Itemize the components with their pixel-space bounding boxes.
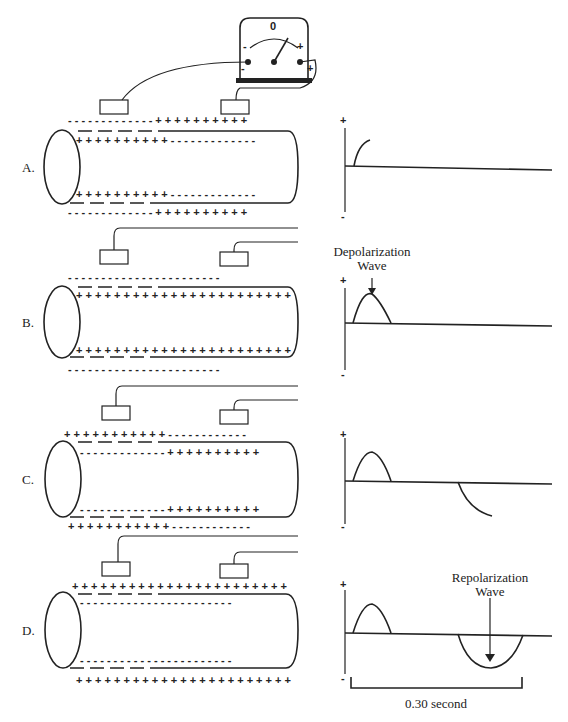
electrode-left-d [102,562,130,576]
terminal-minus-sign: - [241,62,245,74]
panel-label-a: A. [22,160,35,175]
trace-d-minus: - [341,672,345,684]
panel-label-c: C. [22,472,34,487]
c-outer-top-charges: + + + + + + + + + + + - - - - - - - - - … [64,428,246,440]
electrode-right-b [220,252,248,266]
trace-a-plus: + [340,114,346,126]
electrode-right-a [221,100,249,114]
depolarization-wave-label-line2: Wave [357,258,386,273]
galvanometer-zero-label: 0 [270,20,276,32]
wire-right-d [234,552,298,564]
c-inner-bottom-charges: - - - - - - - - - - - - - + + + + + + + … [80,503,259,515]
wire-right-b [234,242,298,252]
wire-left-c [116,386,298,406]
trace-b [345,278,552,370]
trace-a [345,128,552,212]
wire-left-d [118,536,298,562]
electrode-left-b [100,250,128,264]
d-outer-top-charges: + + + + + + + + + + + + + + + + + + + + … [72,580,287,592]
time-scale-label: 0.30 second [405,696,468,711]
a-inner-top-charges: + + + + + + + + + + - - - - - - - - - - … [76,134,255,146]
galvanometer-base [236,78,312,83]
trace-c [345,438,552,524]
trace-c-minus: - [341,520,345,532]
c-inner-top-charges: - - - - - - - - - - - - - + + + + + + + … [80,446,259,458]
trace-d [345,590,552,674]
galvanometer-needle [274,38,288,62]
terminal-plus-sign: + [307,62,313,74]
b-inner-bottom-charges: + + + + + + + + + + + + + + + + + + + + … [76,344,291,356]
depolarization-wave-label-line1: Depolarization [333,244,411,259]
wire-negative [122,62,248,100]
electrode-left-c [102,406,130,420]
trace-c-plus: + [340,428,346,440]
time-scale-bracket [351,677,522,688]
b-outer-bottom-charges: - - - - - - - - - - - - - - - - - - - - … [68,363,220,375]
a-outer-top-charges: - - - - - - - - - - - - - + + + + + + + … [68,114,247,126]
wire-left-b [114,228,298,250]
galvanometer: 0 - + - + [236,18,313,83]
galvanometer-plus-label: + [297,40,303,52]
panel-label-b: B. [22,315,34,330]
a-outer-bottom-charges: - - - - - - - - - - - - - + + + + + + + … [68,206,247,218]
trace-b-minus: - [341,368,345,380]
electrode-right-c [220,410,248,424]
c-outer-bottom-charges: + + + + + + + + + + + - - - - - - - - - … [68,520,250,532]
a-inner-bottom-charges: + + + + + + + + + + - - - - - - - - - - … [76,188,255,200]
repolarization-wave-label-line2: Wave [475,584,504,599]
b-outer-top-charges: - - - - - - - - - - - - - - - - - - - - … [68,271,220,283]
electrode-right-d [220,564,248,578]
d-outer-bottom-charges: + + + + + + + + + + + + + + + + + + + + … [76,674,291,686]
panel-label-d: D. [22,623,35,638]
repolarization-wave-label-line1: Repolarization [452,570,529,585]
d-inner-bottom-charges: - - - - - - - - - - - - - - - - - - - - … [80,654,232,666]
trace-a-minus: - [341,210,345,222]
wire-right-c [234,400,298,410]
electrode-left-a [100,100,128,114]
trace-b-plus: + [340,274,346,286]
galvanometer-scale-arc [250,39,298,48]
trace-d-plus: + [340,578,346,590]
b-inner-top-charges: + + + + + + + + + + + + + + + + + + + + … [76,289,291,301]
galvanometer-minus-label: - [243,40,247,52]
d-inner-top-charges: - - - - - - - - - - - - - - - - - - - - … [80,596,232,608]
